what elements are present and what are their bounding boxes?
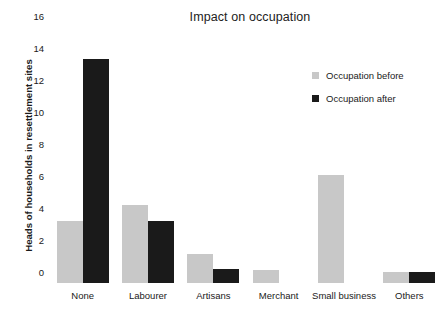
bar-group: Merchant [246, 27, 311, 283]
y-tick-label: 14 [33, 43, 44, 54]
bars-row [50, 27, 115, 283]
bars-row [377, 27, 442, 283]
bars-row [311, 27, 376, 283]
bar-after[interactable] [83, 59, 109, 283]
y-tick-label: 0 [39, 267, 44, 278]
bar-after[interactable] [409, 272, 435, 283]
legend-label: Occupation after [326, 93, 396, 104]
legend-swatch-icon [312, 95, 319, 102]
legend-swatch-icon [312, 72, 319, 79]
x-tick-label: Small business [312, 290, 376, 301]
bar-group: Labourer [115, 27, 180, 283]
x-tick-label: Artisans [196, 290, 230, 301]
bar-before[interactable] [253, 270, 279, 283]
legend-entry[interactable]: Occupation after [312, 90, 404, 106]
plot-area: 0246810121416NoneLabourerArtisansMerchan… [50, 27, 442, 283]
chart-figure: Impact on occupation Heads of households… [0, 0, 446, 312]
bar-before[interactable] [122, 205, 148, 283]
chart-title: Impact on occupation [110, 10, 390, 24]
x-tick-label: None [71, 290, 94, 301]
bar-after[interactable] [148, 221, 174, 283]
y-tick-label: 12 [33, 75, 44, 86]
y-tick-label: 10 [33, 107, 44, 118]
y-tick-label: 2 [39, 235, 44, 246]
y-tick-label: 4 [39, 203, 44, 214]
bar-before[interactable] [187, 254, 213, 283]
bar-group: None [50, 27, 115, 283]
x-tick-label: Others [395, 290, 424, 301]
legend-label: Occupation before [326, 70, 404, 81]
y-axis-title: Heads of households in resettlement site… [23, 36, 34, 276]
bars-row [246, 27, 311, 283]
bars-row [181, 27, 246, 283]
bar-group: Small business [311, 27, 376, 283]
y-tick-label: 8 [39, 139, 44, 150]
bars-row [115, 27, 180, 283]
bar-before[interactable] [57, 221, 83, 283]
bar-group: Artisans [181, 27, 246, 283]
bar-before[interactable] [318, 175, 344, 283]
y-tick-label: 6 [39, 171, 44, 182]
chart-legend: Occupation beforeOccupation after [312, 67, 404, 113]
y-tick-label: 16 [33, 11, 44, 22]
bar-after[interactable] [213, 269, 239, 283]
legend-entry[interactable]: Occupation before [312, 67, 404, 83]
bar-group: Others [377, 27, 442, 283]
bar-before[interactable] [383, 272, 409, 283]
x-tick-label: Labourer [129, 290, 167, 301]
x-tick-label: Merchant [259, 290, 299, 301]
